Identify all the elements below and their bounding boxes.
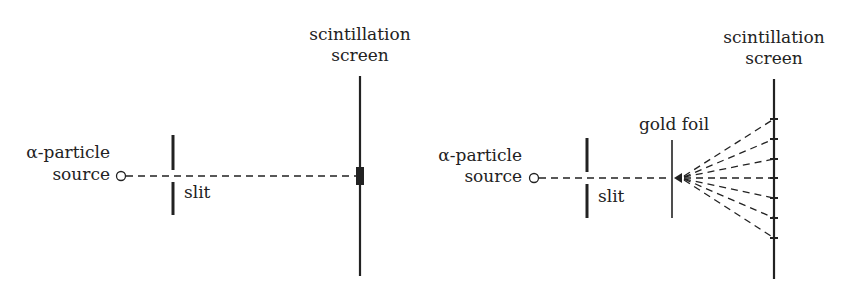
scattering-point xyxy=(674,173,682,183)
right-source-label-2: source xyxy=(422,166,522,186)
right-slit-label: slit xyxy=(598,186,624,206)
right-screen-label-1: scintillation xyxy=(714,27,834,47)
left-screen-label-2: screen xyxy=(300,45,420,65)
impact-spot xyxy=(356,167,364,185)
rutherford-experiment-figure: α-particle source slit scintillation scr… xyxy=(0,0,847,293)
source-circle xyxy=(530,174,539,183)
gold-foil-label: gold foil xyxy=(624,114,724,134)
scattered-rays xyxy=(684,119,774,238)
left-source-label-1: α-particle xyxy=(10,142,110,162)
right-screen-label-2: screen xyxy=(714,48,834,68)
right-diagram xyxy=(530,79,779,279)
left-diagram xyxy=(117,76,365,276)
left-source-label-2: source xyxy=(10,164,110,184)
right-source-label-1: α-particle xyxy=(422,145,522,165)
source-circle xyxy=(117,172,126,181)
left-screen-label-1: scintillation xyxy=(300,24,420,44)
left-slit-label: slit xyxy=(184,182,210,202)
